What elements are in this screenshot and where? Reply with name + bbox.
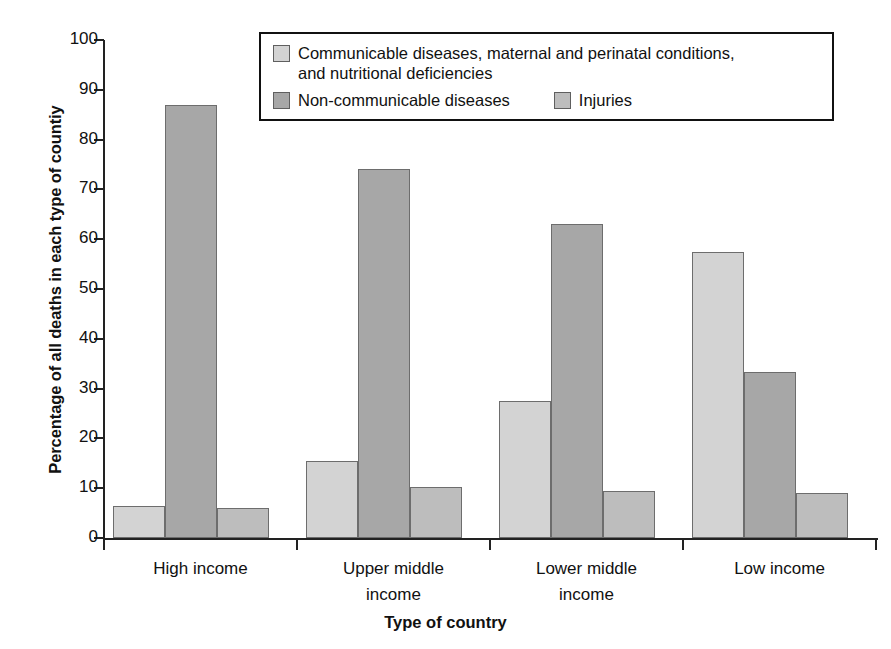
x-tick-mark	[682, 539, 684, 550]
y-tick-label: 100	[70, 29, 98, 49]
bar[interactable]	[165, 105, 217, 538]
y-axis-title: Percentage of all deaths in each type of…	[46, 40, 65, 540]
legend-label-communicable: Communicable diseases, maternal and peri…	[298, 43, 735, 83]
legend-item-noncommunicable[interactable]: Non-communicable diseases	[273, 90, 510, 110]
legend-swatch-icon-noncommunicable	[273, 92, 290, 109]
x-category-label-line: income	[490, 582, 683, 608]
bar[interactable]	[410, 487, 462, 538]
bar[interactable]	[358, 169, 410, 538]
legend-label-injuries: Injuries	[579, 90, 632, 110]
y-tick-label: 40	[79, 328, 98, 348]
y-tick-label: 50	[79, 278, 98, 298]
legend-row-bottom: Non-communicable diseases Injuries	[273, 90, 822, 110]
x-category-label: Low income	[683, 556, 876, 582]
x-tick-mark	[875, 539, 877, 550]
x-category-label-line: Low income	[683, 556, 876, 582]
x-category-label: Upper middleincome	[297, 556, 490, 608]
bar[interactable]	[306, 461, 358, 538]
x-category-label-line: Upper middle	[297, 556, 490, 582]
y-tick-label: 70	[79, 178, 98, 198]
x-tick-mark	[489, 539, 491, 550]
legend-item-injuries[interactable]: Injuries	[554, 90, 632, 110]
y-tick-label: 80	[79, 129, 98, 149]
bar[interactable]	[551, 224, 603, 538]
bar[interactable]	[113, 506, 165, 538]
y-tick-label: 10	[79, 477, 98, 497]
bar[interactable]	[692, 252, 744, 538]
y-tick-label: 60	[79, 228, 98, 248]
bar[interactable]	[796, 493, 848, 538]
chart-legend: Communicable diseases, maternal and peri…	[259, 32, 834, 121]
bar[interactable]	[744, 372, 796, 538]
bar[interactable]	[603, 491, 655, 538]
y-tick-label: 0	[89, 527, 98, 547]
x-tick-mark	[296, 539, 298, 550]
legend-swatch-icon-communicable	[273, 45, 290, 62]
y-tick-label: 90	[79, 79, 98, 99]
bar[interactable]	[499, 401, 551, 538]
x-category-label: Lower middleincome	[490, 556, 683, 608]
legend-label-communicable-line2: and nutritional deficiencies	[298, 64, 492, 82]
legend-label-noncommunicable: Non-communicable diseases	[298, 90, 510, 110]
legend-item-communicable[interactable]: Communicable diseases, maternal and peri…	[273, 43, 822, 83]
x-tick-mark	[103, 539, 105, 550]
y-tick-label: 30	[79, 378, 98, 398]
bar-chart-figure: Percentage of all deaths in each type of…	[0, 0, 891, 649]
x-category-label-line: High income	[104, 556, 297, 582]
bar[interactable]	[217, 508, 269, 538]
x-category-label-line: Lower middle	[490, 556, 683, 582]
legend-swatch-icon-injuries	[554, 92, 571, 109]
bar-group	[113, 40, 269, 538]
x-category-label-line: income	[297, 582, 490, 608]
legend-label-communicable-line1: Communicable diseases, maternal and peri…	[298, 44, 735, 62]
x-axis-title: Type of country	[0, 613, 891, 632]
y-tick-label: 20	[79, 427, 98, 447]
x-category-label: High income	[104, 556, 297, 582]
